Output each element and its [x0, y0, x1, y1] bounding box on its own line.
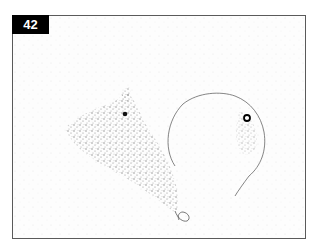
background-speckle — [13, 16, 306, 239]
panel-label: 42 — [12, 15, 49, 34]
dark-dot-left — [123, 112, 128, 117]
ringed-dot-right — [244, 115, 250, 121]
microscopy-image — [13, 16, 306, 239]
image-panel — [12, 15, 306, 239]
